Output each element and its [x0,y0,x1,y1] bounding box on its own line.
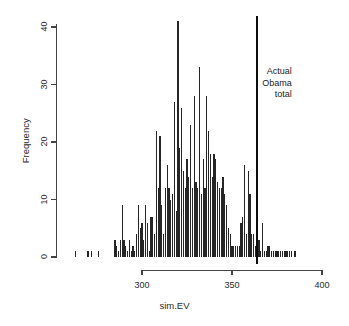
histogram-bars [0,0,349,258]
annotation-line-3: total [262,89,292,101]
histogram-bar [87,251,88,257]
histogram-bar [294,251,295,257]
x-tick-400 [321,270,322,275]
histogram-bar [98,251,99,257]
annotation-line-1: Actual [262,66,292,78]
y-axis-label: Frequency [21,111,31,171]
x-tick-label-350: 350 [217,281,247,290]
histogram-bar [75,251,76,257]
histogram-figure: 010203040 300350400 Actual Obama total F… [0,0,349,326]
x-axis-label: sim.EV [0,301,349,311]
histogram-bar [291,251,292,257]
x-tick-300 [141,270,142,275]
x-tick-label-300: 300 [127,281,157,290]
x-tick-350 [231,270,232,275]
actual-obama-total-line [256,16,258,264]
x-tick-label-400: 400 [307,281,337,290]
actual-obama-total-annotation: Actual Obama total [262,66,292,101]
histogram-bar [91,251,92,257]
annotation-line-2: Obama [262,78,292,90]
